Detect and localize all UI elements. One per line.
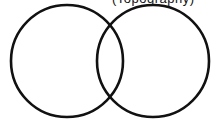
venn-circle-right: [97, 5, 209, 117]
venn-circle-left: [11, 5, 123, 117]
venn-diagram: [0, 0, 215, 123]
